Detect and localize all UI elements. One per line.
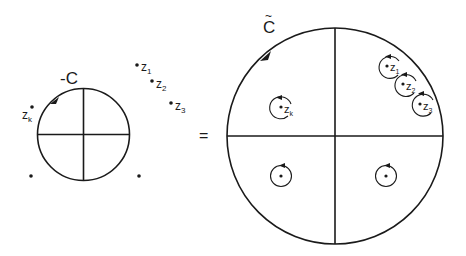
small-contour-bottom-right-arrow-icon [384,163,390,168]
small-contour-z3-point [418,102,421,105]
small-contour-bottom-left-point [279,174,282,177]
small-contour-bottom-left-arrow-icon [279,163,285,168]
left-contour-label: -C [60,69,78,88]
point-z1 [135,63,139,67]
contour-diagram: -C z1 z2 z3 zk = C ~ z1 z2 [0,0,466,256]
small-contour-zk-point [279,105,282,108]
small-contours: z1 z2 z3 zk [270,54,433,187]
small-contour-z1-label: z1 [390,61,400,75]
point-zk [30,105,34,109]
small-contour-zk-arrow-icon [276,95,282,100]
point-z2-label: z2 [156,77,167,93]
point-bottom-left [29,174,33,178]
point-z1-label: z1 [141,60,152,76]
small-contour-z2-label: z2 [406,80,416,94]
small-contour-z3-label: z3 [423,100,433,114]
point-z2 [150,79,154,83]
point-z3 [169,101,173,105]
right-contour-tilde: ~ [265,9,272,23]
right-contour-group: C ~ [227,9,443,244]
small-contour-z1-arrow-icon [385,54,391,59]
left-points: z1 z2 z3 zk [22,60,186,178]
small-contour-bottom-right-point [384,174,387,177]
equals-sign: = [199,127,208,144]
small-contour-z2-point [401,82,404,85]
small-contour-z2-arrow-icon [401,72,407,77]
left-contour-group: -C [38,69,130,181]
small-contour-zk-label: zk [284,103,294,117]
point-zk-label: zk [22,108,33,124]
point-z3-label: z3 [175,99,186,115]
point-bottom-right [137,174,141,178]
small-contour-z1-point [385,64,388,67]
